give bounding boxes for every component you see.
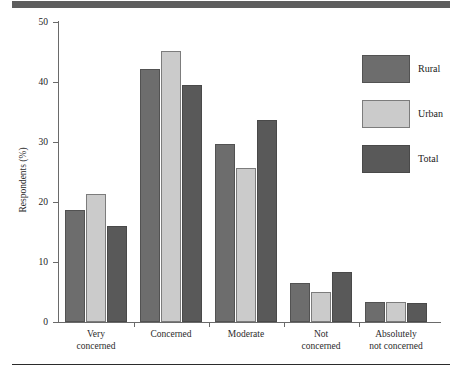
legend-label: Urban (418, 108, 443, 119)
legend: RuralUrbanTotal (362, 55, 455, 190)
bottom-rule (12, 364, 450, 365)
x-group-separator-tick (284, 322, 285, 327)
y-tick-label: 40 (26, 77, 48, 87)
legend-swatch (362, 55, 410, 83)
bar (86, 194, 106, 322)
x-category-label-line: Absolutely (346, 328, 446, 340)
bar (182, 85, 202, 322)
x-group-separator-tick (209, 322, 210, 327)
y-axis-ticks: 01020304050 (0, 0, 59, 372)
legend-item: Total (362, 145, 455, 183)
bar (161, 51, 181, 322)
bar (386, 302, 406, 322)
x-category-label-line: concerned (46, 340, 146, 352)
top-banner-bar (12, 1, 450, 8)
bar (236, 168, 256, 322)
x-group-separator-tick (359, 322, 360, 327)
bar (257, 120, 277, 322)
bar (332, 272, 352, 322)
bar (140, 69, 160, 322)
y-tick-label: 20 (26, 197, 48, 207)
legend-label: Rural (418, 63, 440, 74)
legend-swatch (362, 100, 410, 128)
x-axis-line (58, 322, 441, 323)
x-category-label-line: not concerned (346, 340, 446, 352)
y-tick-label: 0 (26, 317, 48, 327)
bar (365, 302, 385, 322)
y-tick-label: 10 (26, 257, 48, 267)
figure-canvas: Respondents (%) 01020304050 Veryconcerne… (0, 0, 455, 372)
y-tick-label: 30 (26, 137, 48, 147)
bar (215, 144, 235, 322)
bar (407, 303, 427, 322)
bar (65, 210, 85, 322)
x-group-separator-tick (134, 322, 135, 327)
bar (290, 283, 310, 322)
legend-item: Rural (362, 55, 455, 93)
legend-swatch (362, 145, 410, 173)
legend-item: Urban (362, 100, 455, 138)
bar (311, 292, 331, 322)
y-tick-label: 50 (26, 17, 48, 27)
legend-label: Total (418, 153, 438, 164)
x-category-label: Absolutelynot concerned (346, 328, 446, 352)
bar (107, 226, 127, 322)
